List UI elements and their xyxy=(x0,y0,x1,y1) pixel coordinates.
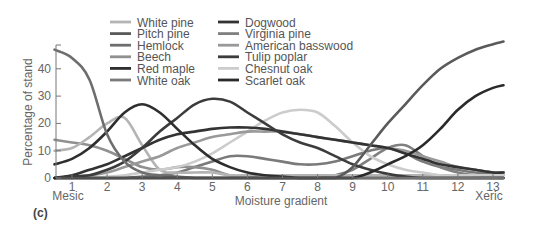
y-tick-label: 10 xyxy=(38,144,52,158)
x-tick-label: 5 xyxy=(209,180,216,194)
x-tick-label: 9 xyxy=(349,180,356,194)
forest-stand-chart: White pinePitch pineHemlockBeechRed mapl… xyxy=(0,0,534,227)
y-ticks: 010203040 xyxy=(38,62,61,185)
x-tick-label: 11 xyxy=(417,180,430,194)
x-tick-label: 12 xyxy=(451,180,465,194)
legend: White pinePitch pineHemlockBeechRed mapl… xyxy=(110,16,353,88)
x-tick-label: 3 xyxy=(139,180,146,194)
legend-label-white-oak: White oak xyxy=(137,74,191,88)
series-line-american-basswood xyxy=(55,131,504,178)
y-tick-label: 40 xyxy=(38,62,52,76)
mesic-label: Mesic xyxy=(52,189,83,203)
y-axis-title: Percentage of stand xyxy=(21,58,35,165)
x-tick-label: 7 xyxy=(279,180,286,194)
y-tick-label: 20 xyxy=(38,116,52,130)
x-tick-label: 4 xyxy=(174,180,181,194)
x-tick-label: 2 xyxy=(104,180,111,194)
x-axis-title: Moisture gradient xyxy=(235,194,328,208)
panel-label: (c) xyxy=(33,206,48,220)
x-tick-label: 6 xyxy=(244,180,251,194)
x-tick-label: 8 xyxy=(314,180,321,194)
y-tick-label: 30 xyxy=(38,89,52,103)
xeric-label: Xeric xyxy=(475,189,502,203)
legend-label-scarlet-oak: Scarlet oak xyxy=(245,74,306,88)
x-tick-label: 10 xyxy=(381,180,395,194)
y-tick-label: 0 xyxy=(44,171,51,185)
series-line-dogwood xyxy=(55,127,504,178)
